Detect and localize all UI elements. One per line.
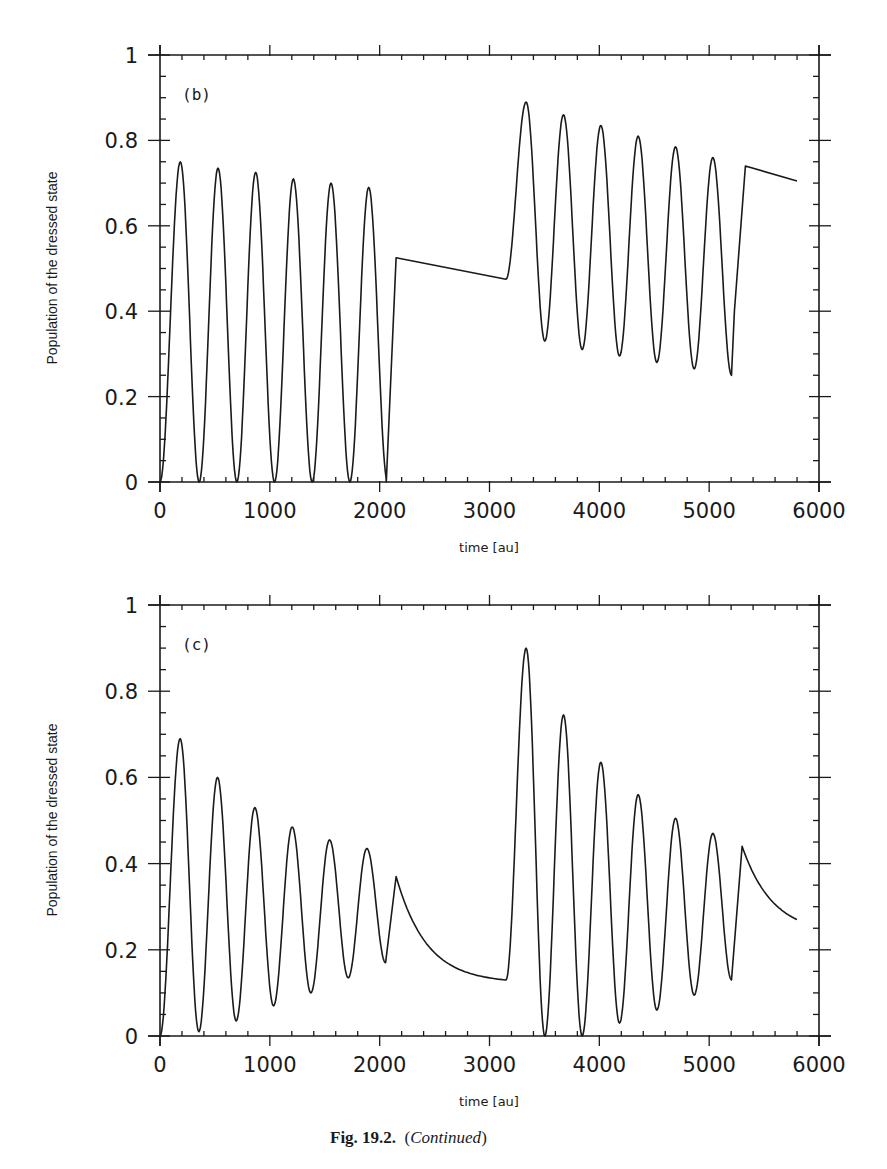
y-tick-label: 0.4: [105, 853, 138, 877]
y-tick-label: 0.6: [105, 766, 138, 790]
panel-label: (b): [182, 85, 211, 104]
x-tick-label: 0: [153, 1053, 166, 1077]
population-curve: [160, 648, 797, 1036]
x-tick-label: 5000: [682, 1053, 735, 1077]
y-tick-label: 0: [125, 1025, 138, 1049]
y-tick-label: 0.6: [105, 215, 138, 239]
y-tick-label: 0.2: [105, 386, 138, 410]
y-axis-label: Population of the dressed state: [44, 171, 60, 364]
x-tick-label: 1000: [243, 1053, 296, 1077]
x-tick-label: 6000: [792, 499, 845, 523]
axis-ticks: [148, 45, 831, 492]
x-tick-label: 2000: [353, 499, 406, 523]
axes-frame: [148, 45, 831, 492]
x-tick-label: 0: [153, 499, 166, 523]
x-tick-label: 2000: [353, 1053, 406, 1077]
x-tick-label: 4000: [573, 1053, 626, 1077]
y-axis-label: Population of the dressed state: [44, 723, 60, 916]
y-tick-label: 1: [125, 44, 138, 68]
tick-labels: 010002000300040005000600000.20.40.60.81: [105, 594, 846, 1077]
caption-paren-close: ): [481, 1128, 487, 1147]
x-tick-label: 3000: [463, 1053, 516, 1077]
y-tick-label: 0: [125, 471, 138, 495]
figure: 010002000300040005000600000.20.40.60.81 …: [0, 0, 887, 1169]
x-tick-label: 3000: [463, 499, 516, 523]
figure-number: Fig. 19.2.: [330, 1128, 396, 1147]
tick-labels: 010002000300040005000600000.20.40.60.81: [105, 44, 846, 523]
y-tick-label: 0.4: [105, 300, 138, 324]
y-tick-label: 0.8: [105, 680, 138, 704]
chart-panel-b: 010002000300040005000600000.20.40.60.81 …: [44, 44, 846, 555]
x-tick-label: 1000: [243, 499, 296, 523]
x-tick-label: 4000: [573, 499, 626, 523]
x-axis-label: time [au]: [459, 1094, 519, 1109]
x-axis-label: time [au]: [459, 540, 519, 555]
chart-panel-c: 010002000300040005000600000.20.40.60.81 …: [44, 594, 846, 1109]
x-tick-label: 5000: [682, 499, 735, 523]
y-tick-label: 0.8: [105, 129, 138, 153]
figure-caption: Fig. 19.2. (Continued): [330, 1128, 487, 1148]
caption-note: Continued: [410, 1128, 481, 1147]
panel-label: (c): [182, 635, 211, 654]
y-tick-label: 1: [125, 594, 138, 618]
y-tick-label: 0.2: [105, 939, 138, 963]
population-curve: [160, 102, 797, 482]
x-tick-label: 6000: [792, 1053, 845, 1077]
